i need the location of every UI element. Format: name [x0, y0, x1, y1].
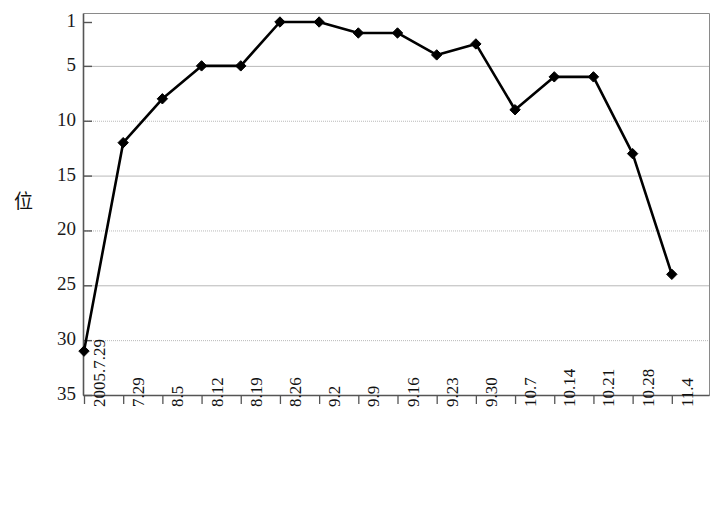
line-chart: 位 15101520253035 2005.7.297.298.58.128.1… — [0, 0, 727, 518]
x-axis-ticks — [85, 396, 673, 405]
plot-area — [0, 0, 727, 518]
plot-background — [83, 13, 710, 395]
